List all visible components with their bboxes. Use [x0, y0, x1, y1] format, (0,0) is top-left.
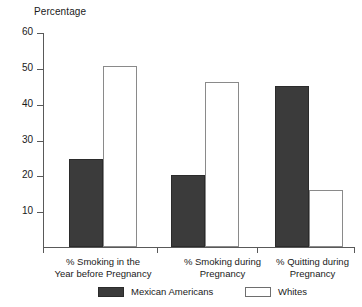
y-tick-20: 20	[37, 176, 43, 177]
y-tick-label-10: 10	[22, 205, 33, 217]
category-label-smoking-before-pregnancy: % Smoking in the Year before Pregnancy	[38, 256, 168, 280]
bar-chart-figure: Percentage 60 50 40 30 20 10	[0, 0, 362, 307]
y-axis-title: Percentage	[34, 6, 86, 18]
bar-mexican-americans-quitting-during-pregnancy	[275, 86, 309, 247]
legend-swatch-whites	[245, 287, 271, 297]
legend-entry-mexican-americans: Mexican Americans	[98, 286, 213, 298]
bar-whites-quitting-during-pregnancy	[309, 190, 343, 247]
legend-label-mexican-americans: Mexican Americans	[131, 286, 213, 298]
bar-mexican-americans-smoking-during-pregnancy	[171, 175, 205, 247]
chart-legend: Mexican Americans Whites	[0, 286, 362, 302]
plot-area: 60 50 40 30 20 10	[43, 33, 355, 248]
x-separator-2	[257, 248, 258, 253]
category-label-quitting-during-pregnancy: % Quitting during Pregnancy	[263, 256, 362, 280]
y-tick-30: 30	[37, 141, 43, 142]
y-axis-line	[43, 33, 44, 248]
y-tick-10: 10	[37, 212, 43, 213]
y-tick-label-20: 20	[22, 169, 33, 181]
y-tick-50: 50	[37, 69, 43, 70]
y-tick-label-50: 50	[22, 62, 33, 74]
y-tick-label-60: 60	[22, 26, 33, 38]
bar-whites-smoking-during-pregnancy	[205, 82, 239, 247]
x-separator-1	[157, 248, 158, 253]
bar-whites-smoking-before-pregnancy	[103, 66, 137, 247]
y-tick-60: 60	[37, 33, 43, 34]
x-separator-0	[43, 248, 44, 253]
y-tick-40: 40	[37, 105, 43, 106]
x-separator-3	[354, 248, 355, 253]
legend-label-whites: Whites	[278, 286, 307, 298]
y-tick-label-30: 30	[22, 134, 33, 146]
bar-mexican-americans-smoking-before-pregnancy	[69, 159, 103, 247]
y-tick-label-40: 40	[22, 98, 33, 110]
x-axis-line	[43, 247, 355, 248]
legend-swatch-mexican-americans	[98, 287, 124, 297]
legend-entry-whites: Whites	[245, 286, 307, 298]
